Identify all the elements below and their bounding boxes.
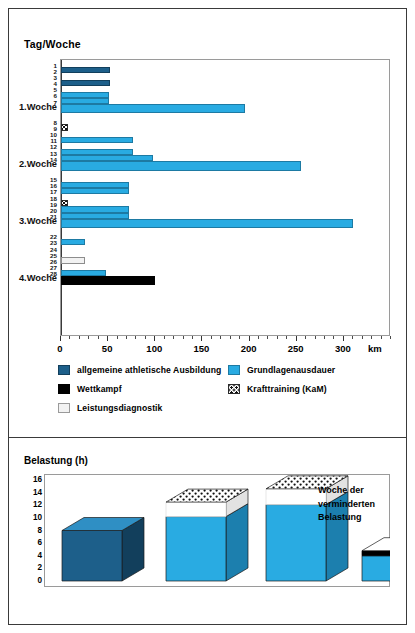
legend-label: allgemeine athletische Ausbildung	[77, 365, 221, 375]
x-tick	[98, 336, 99, 339]
legend-swatch-gau	[228, 365, 240, 375]
x-tick	[60, 336, 61, 341]
top-chart-axis-title: Tag/Woche	[24, 38, 81, 50]
bar-row	[60, 276, 390, 285]
x-tick	[220, 336, 221, 339]
legend-item-wk: Wettkampf	[58, 383, 122, 395]
x-tick	[258, 336, 259, 339]
chart-legend: allgemeine athletische AusbildungGrundla…	[0, 363, 415, 425]
x-axis-unit: km	[368, 343, 382, 354]
x-tick	[164, 336, 165, 339]
load-hours-chart: Belastung (h) 0246810121416 Woche der ve…	[0, 438, 415, 633]
top-x-axis	[60, 336, 390, 342]
chart-page: Tag/Woche 12345671.Woche8910111213142.Wo…	[0, 0, 415, 633]
x-tick-label: 100	[146, 343, 162, 354]
top-x-axis-labels: 050100150200250300km	[0, 343, 415, 357]
legend-label: Wettkampf	[77, 384, 122, 394]
x-tick	[315, 336, 316, 339]
x-tick	[154, 336, 155, 341]
x-tick	[249, 336, 250, 341]
x-tick	[286, 336, 287, 339]
y-tick-label: 14	[26, 489, 42, 497]
x-tick	[305, 336, 306, 339]
y-tick-label: 6	[26, 539, 42, 547]
x-tick	[117, 336, 118, 339]
bar-3d	[62, 518, 144, 582]
bar-wk	[61, 276, 155, 285]
legend-swatch-wk	[58, 384, 70, 394]
bar-row	[60, 219, 390, 228]
top-chart-bars	[60, 59, 390, 336]
legend-item-ld: Leistungsdiagnostik	[58, 402, 162, 414]
x-tick	[390, 336, 391, 339]
y-tick-label: 8	[26, 527, 42, 535]
x-tick-label: 300	[335, 343, 351, 354]
x-tick	[88, 336, 89, 339]
bar-gau	[61, 219, 353, 228]
bar-gau	[61, 161, 301, 170]
x-tick	[343, 336, 344, 341]
x-tick	[135, 336, 136, 339]
legend-label: Krafttraining (KaM)	[247, 384, 327, 394]
x-tick	[362, 336, 363, 339]
legend-label: Leistungsdiagnostik	[77, 403, 162, 413]
x-tick	[107, 336, 108, 341]
bar-gau	[61, 104, 245, 113]
y-tick-label: 12	[26, 501, 42, 509]
x-tick-label: 0	[57, 343, 62, 354]
x-tick-label: 150	[193, 343, 209, 354]
bar-3d	[166, 489, 248, 581]
x-tick	[183, 336, 184, 339]
legend-label: Grundlagenausdauer	[247, 365, 335, 375]
legend-item-gau: Grundlagenausdauer	[228, 364, 335, 376]
week-label: 1.Woche	[2, 103, 60, 112]
x-tick	[324, 336, 325, 339]
y-tick-label: 10	[26, 514, 42, 522]
x-tick	[79, 336, 80, 339]
legend-swatch-kt	[228, 384, 240, 394]
x-tick	[211, 336, 212, 339]
x-tick	[201, 336, 202, 341]
bar-row	[60, 104, 390, 113]
legend-item-kt: Krafttraining (KaM)	[228, 383, 327, 395]
bottom-chart-axis-title: Belastung (h)	[24, 455, 88, 466]
x-tick-label: 250	[288, 343, 304, 354]
x-tick	[267, 336, 268, 339]
x-tick	[145, 336, 146, 339]
x-tick	[333, 336, 334, 339]
bar-row	[60, 161, 390, 170]
x-tick	[239, 336, 240, 339]
x-tick	[173, 336, 174, 339]
week-label: 3.Woche	[2, 217, 60, 226]
x-tick	[352, 336, 353, 339]
legend-item-gla: allgemeine athletische Ausbildung	[58, 364, 221, 376]
y-tick-label: 2	[26, 564, 42, 572]
weekly-kilometres-chart: Tag/Woche 12345671.Woche8910111213142.Wo…	[0, 0, 415, 435]
y-tick-label: 16	[26, 476, 42, 484]
x-tick	[230, 336, 231, 339]
top-chart-day-labels: 12345671.Woche8910111213142.Woche1516171…	[0, 59, 60, 336]
x-tick	[381, 336, 382, 339]
y-tick-label: 4	[26, 552, 42, 560]
x-tick	[192, 336, 193, 339]
x-tick	[296, 336, 297, 341]
x-tick-label: 50	[102, 343, 113, 354]
y-tick-label: 0	[26, 577, 42, 585]
week-label: 2.Woche	[2, 160, 60, 169]
x-tick	[277, 336, 278, 339]
x-tick	[69, 336, 70, 339]
x-tick	[371, 336, 372, 339]
bottom-y-axis-labels: 0246810121416	[24, 474, 42, 587]
reduced-load-note: Woche der verminderten Belastung	[318, 484, 410, 525]
week-label: 4.Woche	[2, 274, 60, 283]
x-tick-label: 200	[241, 343, 257, 354]
bar-3d	[362, 538, 390, 581]
legend-swatch-ld	[58, 403, 70, 413]
legend-swatch-gla	[58, 365, 70, 375]
x-tick	[126, 336, 127, 339]
